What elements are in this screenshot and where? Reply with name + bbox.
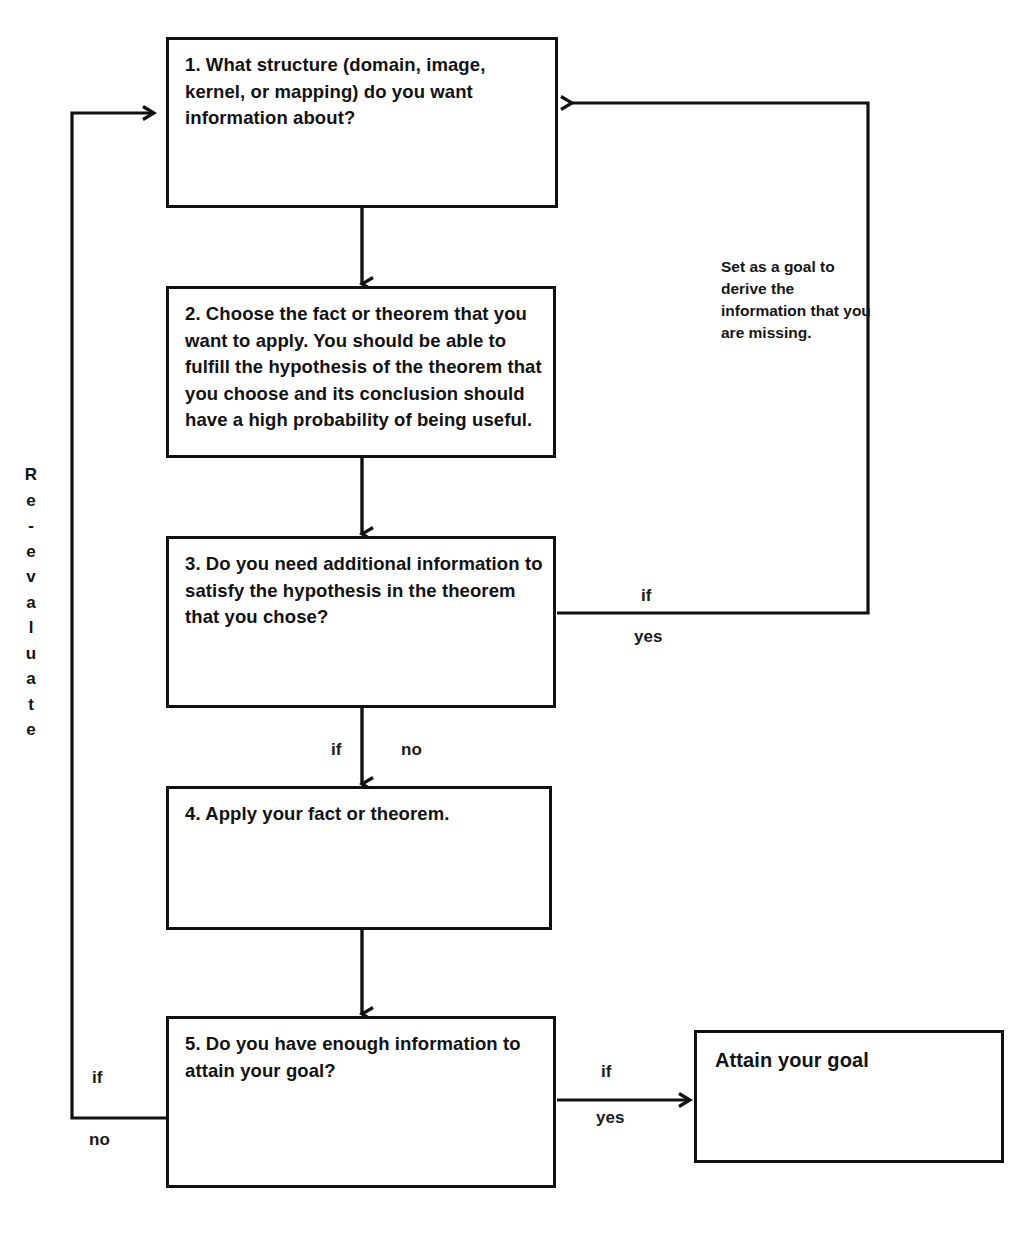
reevaluate-char-0: R (20, 462, 42, 488)
reevaluate-char-7: u (20, 641, 42, 667)
node-step2[interactable]: 2. Choose the fact or theorem that you w… (166, 286, 556, 458)
reevaluate-char-3: e (20, 539, 42, 565)
node-attain-goal-label: Attain your goal (715, 1047, 991, 1074)
connector-step3-yes-to-step1 (557, 103, 868, 613)
edge-label-step3-no-if: if (331, 740, 341, 760)
node-step4[interactable]: 4. Apply your fact or theorem. (166, 786, 552, 930)
annotation-set-goal-note: Set as a goal to derive the information … (721, 256, 871, 344)
edge-label-step3-yes-if: if (641, 586, 651, 606)
reevaluate-char-2: - (20, 513, 42, 539)
node-attain-goal[interactable]: Attain your goal (694, 1030, 1004, 1163)
reevaluate-char-4: v (20, 564, 42, 590)
edge-label-step3-no-value: no (401, 740, 422, 760)
node-step3-label: 3. Do you need additional information to… (185, 551, 543, 631)
node-step1-label: 1. What structure (domain, image, kernel… (185, 52, 545, 132)
edge-label-step5-yes-if: if (601, 1062, 611, 1082)
reevaluate-char-6: l (20, 615, 42, 641)
edge-label-step3-yes-value: yes (634, 627, 662, 647)
node-step5-label: 5. Do you have enough information to att… (185, 1031, 543, 1084)
annotation-reevaluate: R e - e v a l u a t e (20, 462, 42, 743)
node-step2-label: 2. Choose the fact or theorem that you w… (185, 301, 543, 434)
reevaluate-char-5: a (20, 590, 42, 616)
edge-label-step5-no-value: no (89, 1130, 110, 1150)
node-step4-label: 4. Apply your fact or theorem. (185, 801, 539, 828)
edge-label-step5-yes-value: yes (596, 1108, 624, 1128)
reevaluate-char-8: a (20, 666, 42, 692)
node-step3[interactable]: 3. Do you need additional information to… (166, 536, 556, 708)
node-step5[interactable]: 5. Do you have enough information to att… (166, 1016, 556, 1188)
flowchart-canvas: 1. What structure (domain, image, kernel… (0, 0, 1019, 1252)
reevaluate-char-1: e (20, 488, 42, 514)
node-step1[interactable]: 1. What structure (domain, image, kernel… (166, 37, 558, 208)
reevaluate-char-10: e (20, 717, 42, 743)
edge-label-step5-no-if: if (92, 1068, 102, 1088)
connector-step5-no-to-step1 (72, 113, 166, 1118)
reevaluate-char-9: t (20, 692, 42, 718)
